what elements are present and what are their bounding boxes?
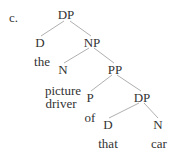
syntax-tree-diagram: c. DP D the NP N picture driver PP P of … — [0, 0, 179, 159]
edge-dp-d-inner — [109, 103, 139, 118]
leaf-driver: driver — [45, 97, 76, 110]
node-n-inner: N — [153, 118, 162, 131]
edge-pp-p — [91, 75, 112, 91]
edge-dp-np — [70, 21, 91, 36]
leaf-of: of — [85, 111, 96, 124]
node-dp-root: DP — [58, 8, 75, 21]
node-d-root: D — [35, 36, 44, 49]
leaf-that: that — [98, 137, 118, 150]
node-np: NP — [84, 36, 101, 49]
node-n-head: N — [58, 63, 67, 76]
edge-np-pp — [94, 48, 114, 63]
node-p: P — [86, 91, 93, 104]
node-pp: PP — [108, 63, 122, 76]
edge-pp-dp — [117, 75, 141, 91]
leaf-the: the — [34, 55, 50, 68]
edge-dp-d — [41, 21, 64, 36]
leaf-car: car — [151, 137, 167, 150]
node-dp-inner: DP — [134, 91, 151, 104]
example-label: c. — [9, 11, 18, 24]
node-d-inner: D — [103, 118, 112, 131]
edge-dp-n-inner — [144, 103, 158, 118]
edge-np-n — [64, 48, 89, 63]
